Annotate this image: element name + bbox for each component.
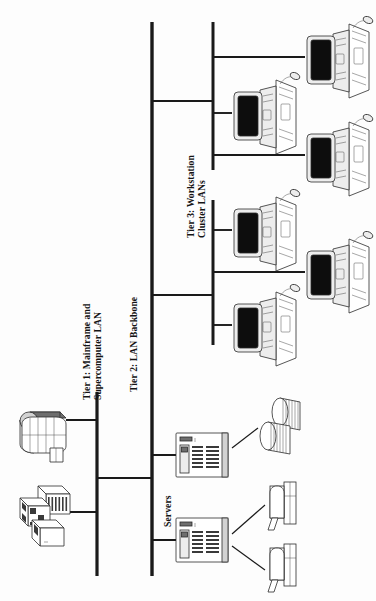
server-rack-icon xyxy=(176,433,228,477)
network-diagram: Tier 1: Mainframe and Supercomputer LAN … xyxy=(0,0,376,601)
tier1-label-line1: Tier 1: Mainframe and xyxy=(81,303,92,400)
server-rack-icon xyxy=(176,518,228,562)
servers-label: Servers xyxy=(162,495,173,527)
tier3-label-line2: Cluster LANs xyxy=(196,180,207,238)
tier1-label-line2: Supercomputer LAN xyxy=(92,312,103,400)
tier2-label: Tier 2: LAN Backbone xyxy=(128,296,139,392)
diagram-canvas: Tier 1: Mainframe and Supercomputer LAN … xyxy=(0,0,376,601)
tier3-label-line1: Tier 3: Workstation xyxy=(185,155,196,238)
